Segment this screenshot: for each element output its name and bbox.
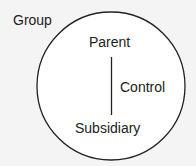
group-label: Group [13, 12, 52, 28]
control-label: Control [120, 79, 165, 95]
subsidiary-node: Subsidiary [75, 120, 140, 136]
parent-node: Parent [89, 34, 130, 50]
